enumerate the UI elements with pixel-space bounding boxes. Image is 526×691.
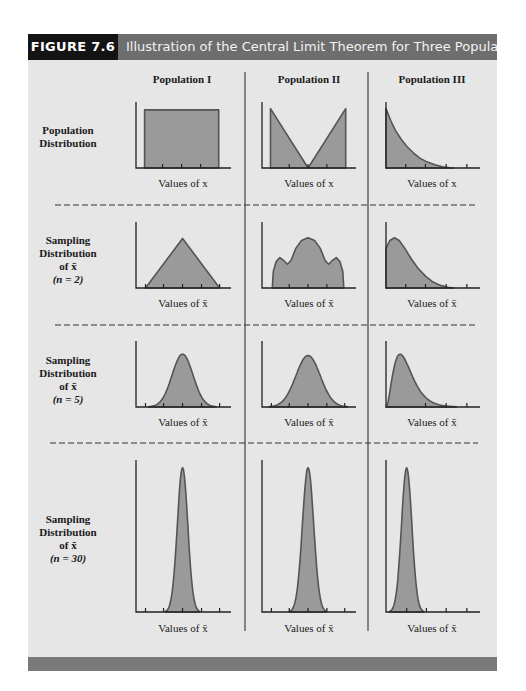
plot-population-iii-row-2 [386, 222, 480, 288]
plot-population-i-row-4 [136, 460, 231, 612]
distribution-curve [145, 110, 219, 168]
plot-population-iii-row-4 [386, 460, 480, 612]
plot-population-ii-row-3 [262, 341, 356, 407]
plot-population-ii-row-2 [262, 222, 356, 288]
distribution-curve [165, 468, 199, 612]
plot-population-ii-row-4 [262, 460, 356, 612]
distribution-curve [289, 468, 326, 612]
distribution-curve [386, 109, 454, 168]
distribution-curve [390, 468, 424, 612]
plot-population-i-row-3 [136, 341, 231, 407]
plot-population-i-row-1 [136, 102, 231, 168]
distribution-curve [271, 109, 346, 168]
distribution-plots [136, 102, 480, 612]
distribution-curve [386, 354, 457, 407]
distribution-curve [149, 354, 216, 407]
plot-population-ii-row-1 [262, 102, 356, 168]
distribution-curve [272, 238, 344, 288]
plot-population-iii-row-3 [386, 341, 480, 407]
distribution-curve [386, 238, 454, 288]
distribution-curve [146, 239, 220, 289]
clt-figure-graphics [0, 0, 526, 691]
distribution-curve [269, 356, 347, 408]
plot-population-iii-row-1 [386, 102, 480, 168]
plot-population-i-row-2 [136, 222, 231, 288]
